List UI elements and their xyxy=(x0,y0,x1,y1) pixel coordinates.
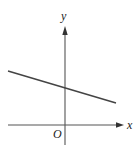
y-axis-label: y xyxy=(60,9,67,23)
coordinate-plane: y x O xyxy=(0,0,138,152)
x-axis-arrow-icon xyxy=(116,122,124,127)
graph-line xyxy=(8,71,116,103)
y-axis-arrow-icon xyxy=(62,26,67,35)
origin-label: O xyxy=(53,127,62,141)
x-axis-label: x xyxy=(126,118,133,132)
